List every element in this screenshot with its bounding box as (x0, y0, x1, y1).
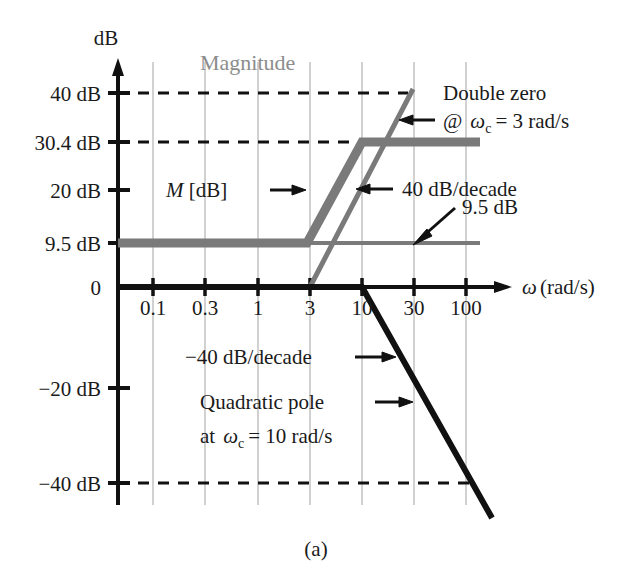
annotation-minus40db-decade: −40 dB/decade (185, 345, 312, 369)
y-tick-label-0: 0 (91, 276, 102, 300)
annotation-double-zero-line1: Double zero (443, 81, 546, 105)
svg-text:@ωc= 3 rad/s: @ωc= 3 rad/s (443, 109, 569, 136)
x-axis-title-units: (rad/s) (540, 275, 595, 299)
x-tick-label-30: 30 (404, 296, 425, 320)
annotation-m-db: M [dB] (165, 178, 227, 202)
y-tick-label-40db: 40 dB (50, 82, 101, 106)
bode-magnitude-figure: dB Magnitude 40 dB 30.4 dB 20 dB 9.5 dB … (0, 0, 633, 579)
quad-pole-omega-sub: c (238, 436, 244, 451)
quad-pole-rest: = 10 rad/s (248, 424, 332, 448)
annotation-quadratic-pole-line1: Quadratic pole (200, 390, 324, 414)
y-axis-title: dB (94, 26, 119, 50)
arrow-m-db (270, 185, 306, 195)
annotation-quadratic-pole-line2: atωc= 10 rad/s (200, 424, 332, 451)
double-zero-omega-sub: c (485, 121, 491, 136)
x-axis-title: ω (rad/s) (522, 275, 595, 299)
y-tick-label-9.5db: 9.5 dB (45, 232, 101, 256)
x-tick-label-0.3: 0.3 (192, 296, 218, 320)
bode-plot-svg: dB Magnitude 40 dB 30.4 dB 20 dB 9.5 dB … (0, 0, 633, 579)
double-zero-rest: = 3 rad/s (495, 109, 569, 133)
x-tick-label-3: 3 (305, 296, 316, 320)
x-tick-label-10: 10 (352, 296, 373, 320)
y-tick-label-minus20db: −20 dB (38, 377, 101, 401)
y-tick-label-minus40db: −40 dB (38, 472, 101, 496)
double-zero-at-symbol: @ (443, 109, 462, 133)
x-axis-arrowhead (494, 281, 512, 293)
magnitude-watermark-label: Magnitude (200, 50, 295, 75)
x-tick-label-0.1: 0.1 (140, 296, 166, 320)
x-tick-label-100: 100 (450, 296, 482, 320)
figure-caption: (a) (304, 537, 327, 561)
arrow-minus40db-decade (355, 352, 396, 362)
arrow-double-zero (399, 115, 435, 125)
svg-text:atωc= 10 rad/s: atωc= 10 rad/s (200, 424, 332, 451)
x-tick-label-1: 1 (253, 296, 264, 320)
annotation-9.5db: 9.5 dB (462, 195, 518, 219)
y-axis (108, 58, 130, 505)
x-axis-title-symbol: ω (522, 275, 537, 299)
double-zero-omega: ω (470, 109, 485, 133)
arrow-9.5db (413, 208, 455, 245)
quad-pole-at: at (200, 424, 215, 448)
arrow-quadratic-pole (375, 397, 413, 407)
y-axis-arrowhead (112, 58, 124, 76)
y-tick-label-30.4db: 30.4 dB (34, 131, 101, 155)
y-tick-label-20db: 20 dB (50, 179, 101, 203)
quad-pole-omega: ω (223, 424, 238, 448)
annotation-double-zero-line2: @ωc= 3 rad/s (443, 109, 569, 136)
